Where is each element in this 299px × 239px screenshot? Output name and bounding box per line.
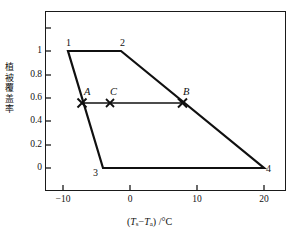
y-tick-label-0_2: 0.2 bbox=[16, 139, 42, 149]
marker-label-a: A bbox=[84, 87, 90, 98]
y-axis-title: 植被覆盖率 bbox=[3, 62, 16, 115]
x-axis-title: (Ts−Ta) /°C bbox=[0, 216, 299, 228]
y-tick-label-0: 0 bbox=[16, 162, 42, 172]
vertex-label-2: 2 bbox=[120, 38, 125, 48]
marker-label-c: C bbox=[110, 87, 117, 98]
x-tick-label-0: −10 bbox=[48, 194, 78, 204]
vertex-label-3: 3 bbox=[93, 168, 98, 178]
y-tick-label-1: 1 bbox=[16, 45, 42, 55]
x-tick-label-3: 20 bbox=[249, 194, 279, 204]
x-axis-title-unit: /°C bbox=[159, 216, 172, 227]
trapezoid-boundary bbox=[68, 51, 264, 168]
y-tick-label-0_4: 0.4 bbox=[16, 115, 42, 125]
vertex-label-4: 4 bbox=[266, 164, 271, 174]
y-tick-label-0_6: 0.6 bbox=[16, 92, 42, 102]
marker-label-b: B bbox=[183, 87, 189, 98]
x-tick-label-1: 0 bbox=[115, 194, 145, 204]
chart-figure: −10 0 10 20 0 0.2 0.4 0.6 0.8 1 1 2 4 3 … bbox=[0, 0, 299, 239]
y-tick-label-0_8: 0.8 bbox=[16, 69, 42, 79]
x-axis-ticks bbox=[63, 185, 264, 191]
y-axis-ticks bbox=[45, 28, 51, 168]
vertex-label-1: 1 bbox=[66, 38, 71, 48]
x-tick-label-2: 10 bbox=[182, 194, 212, 204]
